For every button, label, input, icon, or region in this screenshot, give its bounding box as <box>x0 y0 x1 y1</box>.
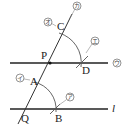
step-label-e: エ <box>91 37 99 45</box>
step-label-u: ウ <box>113 59 121 67</box>
label-b: B <box>55 112 62 124</box>
point-p-dot <box>48 61 51 64</box>
svg-text:エ: エ <box>92 37 98 44</box>
step-label-i: イ <box>16 74 24 82</box>
label-q: Q <box>21 112 29 124</box>
construction-diagram: カ オ エ ウ イ ア C P D A Q B l <box>0 0 131 126</box>
arc-at-p <box>59 33 81 67</box>
label-c: C <box>57 20 64 32</box>
step-label-ka: カ <box>73 2 81 10</box>
label-d: D <box>82 64 90 76</box>
step-label-o: オ <box>44 18 52 26</box>
svg-text:イ: イ <box>17 74 23 81</box>
svg-text:カ: カ <box>74 2 80 9</box>
leader-a <box>59 100 66 105</box>
step-label-a: ア <box>66 93 74 101</box>
label-a: A <box>30 75 38 87</box>
label-line-l: l <box>112 102 115 114</box>
label-p: P <box>41 49 47 61</box>
leader-e <box>86 44 92 53</box>
svg-text:ア: ア <box>67 93 73 100</box>
svg-text:ウ: ウ <box>114 59 120 66</box>
leader-ka <box>70 9 75 18</box>
svg-text:オ: オ <box>45 18 51 25</box>
